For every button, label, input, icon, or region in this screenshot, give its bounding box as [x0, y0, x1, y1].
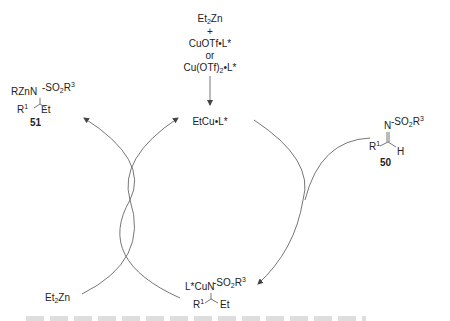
bond-int-et	[211, 299, 218, 303]
figure-caption-cropped	[26, 316, 366, 321]
bond-50-r1	[380, 142, 388, 146]
cycle-arrows	[0, 0, 450, 321]
bond-int-r1	[205, 299, 211, 303]
arc-catalyst-to-intermediate	[254, 120, 305, 284]
bond-50-h	[388, 142, 396, 147]
bond-51-et	[40, 104, 46, 108]
arc-substrate-50-in	[305, 138, 370, 200]
arc-et2zn-to-catalyst	[82, 118, 178, 294]
bond-51-r1	[34, 104, 40, 108]
